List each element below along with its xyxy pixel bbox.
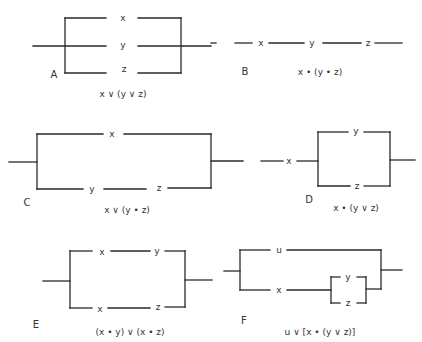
switch-z: z: [366, 38, 371, 48]
switch-y: y: [120, 40, 126, 50]
expression-f: u ∨ [x • (y ∨ z)]: [285, 327, 356, 337]
switch-z: z: [346, 298, 351, 308]
switch-x: x: [258, 38, 264, 48]
switch-y: y: [89, 184, 95, 194]
switch-x: x: [99, 247, 105, 257]
switch-z: z: [355, 181, 360, 191]
panel-label-a: A: [51, 69, 58, 80]
switch-x: x: [120, 13, 126, 23]
switch-x: x: [286, 156, 292, 166]
expression-d: x • (y ∨ z): [333, 203, 379, 213]
switch-y: y: [154, 246, 160, 256]
switch-y: y: [309, 38, 315, 48]
circuit-b: x y z B x • (y • z): [211, 38, 402, 77]
panel-label-d: D: [305, 194, 313, 205]
switching-circuits-figure: x y z A x ∨ (y ∨ z) x y z B x • (y • z) …: [0, 0, 422, 342]
panel-label-c: C: [24, 197, 31, 208]
circuit-c: x y z C x ∨ (y • z): [9, 129, 243, 215]
circuit-d: x y z D x • (y ∨ z): [261, 126, 415, 213]
circuit-e: x y x z E (x • y) ∨ (x • z): [33, 246, 212, 337]
expression-a: x ∨ (y ∨ z): [99, 89, 146, 99]
switch-x: x: [276, 285, 282, 295]
switch-x-2: x: [97, 304, 103, 314]
panel-label-e: E: [33, 319, 39, 330]
switch-y: y: [353, 126, 359, 136]
switch-z: z: [122, 64, 127, 74]
expression-e: (x • y) ∨ (x • z): [95, 327, 164, 337]
expression-b: x • (y • z): [298, 67, 342, 77]
panel-label-b: B: [242, 66, 249, 77]
switch-z: z: [156, 302, 161, 312]
panel-label-f: F: [241, 315, 247, 326]
switch-z: z: [157, 183, 162, 193]
circuit-f: u x y z F u ∨ [x • (y ∨ z)]: [224, 245, 402, 337]
switch-y: y: [345, 272, 351, 282]
circuit-a: x y z A x ∨ (y ∨ z): [33, 13, 211, 99]
switch-x: x: [109, 129, 115, 139]
expression-c: x ∨ (y • z): [104, 205, 150, 215]
switch-u: u: [276, 245, 282, 255]
